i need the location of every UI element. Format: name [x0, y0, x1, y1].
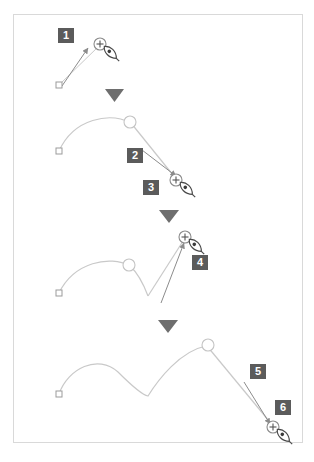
pen-nib-cursor-icon [102, 44, 122, 64]
panel-3 [56, 231, 207, 303]
step-badge-3: 3 [143, 180, 159, 195]
step-badge-5: 5 [250, 364, 266, 379]
anchor-point-square [56, 148, 62, 154]
step-separator-2-icon [159, 210, 179, 223]
bezier-path-segment [59, 118, 131, 151]
step-separator-3-icon [158, 320, 178, 333]
pen-nib-cursor-icon [275, 427, 295, 447]
panel-1 [56, 38, 122, 88]
drag-direction-arrow [161, 243, 184, 303]
anchor-point-circle [202, 339, 214, 351]
panel-4 [56, 339, 295, 447]
drag-direction-arrow [142, 150, 176, 176]
step-badge-4: 4 [192, 255, 208, 270]
drag-direction-arrow [62, 48, 88, 86]
step-badge-6: 6 [275, 400, 291, 415]
step-badge-1: 1 [58, 28, 74, 43]
pen-nib-cursor-icon [187, 237, 207, 257]
anchor-point-square [56, 82, 62, 88]
step-separator-1-icon [105, 89, 124, 102]
anchor-point-circle [124, 116, 136, 128]
pen-nib-cursor-icon [178, 180, 198, 200]
bezier-path-segment [59, 346, 206, 396]
step-badge-2: 2 [127, 148, 143, 163]
drag-handle-line [60, 45, 100, 84]
diagram-canvas [0, 0, 314, 462]
anchor-point-square [56, 290, 62, 296]
anchor-point-circle [123, 259, 135, 271]
drag-direction-arrow [244, 382, 270, 424]
anchor-point-square [56, 391, 62, 397]
